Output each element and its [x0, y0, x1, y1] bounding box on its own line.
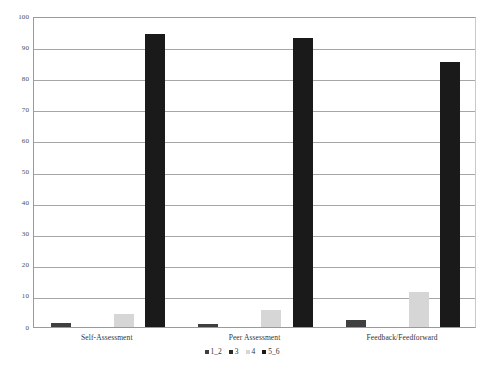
y-axis-tick-label: 30	[0, 231, 29, 238]
y-axis-tick-label: 20	[0, 262, 29, 269]
y-axis-tick-label: 50	[0, 169, 29, 176]
legend-entry[interactable]: 3	[229, 348, 239, 356]
y-axis-tick-label: 90	[0, 45, 29, 52]
bar	[409, 292, 429, 327]
gridline	[34, 267, 475, 268]
bar	[261, 310, 281, 327]
y-axis-tick-label: 10	[0, 293, 29, 300]
gridline	[34, 80, 475, 81]
legend-swatch-icon	[205, 350, 209, 354]
y-axis-tick-label: 80	[0, 76, 29, 83]
plot-area	[33, 17, 476, 328]
bar	[440, 62, 460, 327]
bar-chart: 0102030405060708090100 Self-AssessmentPe…	[0, 0, 484, 366]
gridline	[34, 174, 475, 175]
y-axis-tick-label: 0	[0, 325, 29, 332]
bar	[293, 38, 313, 327]
legend-label: 4	[252, 348, 256, 356]
legend-entry[interactable]: 5_6	[262, 348, 279, 356]
legend-entry[interactable]: 4	[246, 348, 256, 356]
legend-swatch-icon	[229, 350, 233, 354]
legend-label: 5_6	[268, 348, 279, 356]
gridline	[34, 205, 475, 206]
x-axis-category-label: Feedback/Feedforward	[328, 333, 476, 342]
gridline	[34, 49, 475, 50]
legend-label: 3	[235, 348, 239, 356]
y-axis-tick-label: 100	[0, 14, 29, 21]
bar	[51, 323, 71, 327]
chart-legend: 1_2345_6	[0, 348, 484, 356]
x-axis-category-label: Peer Assessment	[181, 333, 329, 342]
legend-label: 1_2	[211, 348, 222, 356]
legend-entry[interactable]: 1_2	[205, 348, 222, 356]
gridline	[34, 142, 475, 143]
gridline	[34, 111, 475, 112]
legend-swatch-icon	[262, 350, 266, 354]
gridline	[34, 236, 475, 237]
y-axis-tick-label: 60	[0, 138, 29, 145]
x-axis-category-label: Self-Assessment	[33, 333, 181, 342]
bar	[114, 314, 134, 327]
bar	[346, 320, 366, 327]
bar	[145, 34, 165, 327]
legend-swatch-icon	[246, 350, 250, 354]
y-axis-tick-label: 40	[0, 200, 29, 207]
bar	[198, 324, 218, 327]
y-axis-tick-label: 70	[0, 107, 29, 114]
